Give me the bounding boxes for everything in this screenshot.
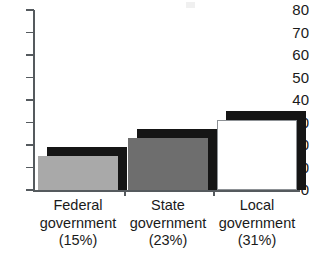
y-axis-tick — [26, 9, 34, 11]
category-label-line2: government — [209, 215, 305, 233]
category-label-line3: (23%) — [120, 232, 216, 250]
category-label-line1: State — [120, 197, 216, 215]
x-axis-baseline — [33, 190, 300, 192]
bar-shadow-right — [118, 147, 127, 190]
scan-artifact — [186, 2, 195, 8]
y-axis-tick — [26, 77, 34, 79]
category-label-local: Local government (31%) — [209, 197, 305, 250]
category-label-line1: Federal — [30, 197, 126, 215]
bar-face — [128, 138, 208, 190]
bar-shadow-top — [47, 147, 127, 156]
y-axis-tick-label: 50 — [285, 70, 309, 85]
y-axis-tick — [26, 189, 34, 191]
category-label-state: State government (23%) — [120, 197, 216, 250]
y-axis-tick-label: 70 — [285, 25, 309, 40]
y-axis-tick — [26, 32, 34, 34]
category-label-line2: government — [120, 215, 216, 233]
y-axis-tick — [26, 144, 34, 146]
bar-shadow-right — [208, 129, 217, 190]
category-label-line3: (31%) — [209, 232, 305, 250]
category-label-line1: Local — [209, 197, 305, 215]
y-axis-tick-label: 60 — [285, 47, 309, 62]
y-axis-tick-label: 40 — [285, 92, 309, 107]
bar — [128, 129, 217, 190]
x-axis-tick — [213, 190, 215, 196]
y-axis-tick-label: 80 — [285, 2, 309, 17]
category-label-federal: Federal government (15%) — [30, 197, 126, 250]
y-axis-tick — [26, 122, 34, 124]
bar-shadow-right — [297, 111, 306, 190]
bar-shadow-top — [226, 111, 306, 120]
y-axis-tick — [26, 167, 34, 169]
category-label-line3: (15%) — [30, 232, 126, 250]
bar — [38, 147, 127, 190]
bar-face — [217, 120, 297, 190]
bar — [217, 111, 306, 190]
category-label-line2: government — [30, 215, 126, 233]
x-axis-tick — [124, 190, 126, 196]
bar-face — [38, 156, 118, 190]
bar-shadow-top — [137, 129, 217, 138]
y-axis-tick — [26, 54, 34, 56]
bar-chart: 80706050403020100 Federal government (15… — [0, 0, 309, 258]
y-axis-tick — [26, 99, 34, 101]
